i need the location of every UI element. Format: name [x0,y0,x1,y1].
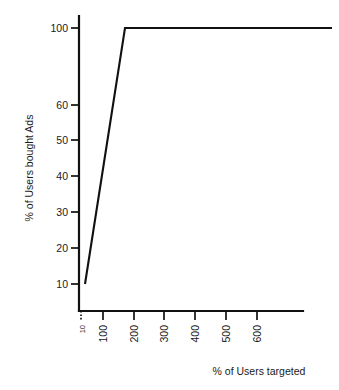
x-axis-title: % of Users targeted [213,365,306,377]
y-tick-label: 50 [56,134,68,146]
x-tick-label: 10 [78,325,87,333]
y-tick-label: 60 [56,99,68,111]
y-tick-label: 20 [56,242,68,254]
x-tick-label: 200 [128,325,140,343]
x-tick-label: 300 [158,325,170,343]
y-tick-label: 30 [56,206,68,218]
chart-figure: 100605040302010 10100200300400500600 % o… [0,0,339,390]
x-tick-label: 100 [97,325,109,343]
x-tick-label: 400 [189,325,201,343]
line-chart: 100605040302010 10100200300400500600 % o… [0,0,339,390]
y-tick-label: 10 [56,278,68,290]
x-tick-label: 500 [220,325,232,343]
y-tick-label: 40 [56,170,68,182]
y-axis-title: % of Users bought Ads [23,115,35,222]
y-tick-label: 100 [50,22,68,34]
x-tick-label: 600 [251,325,263,343]
